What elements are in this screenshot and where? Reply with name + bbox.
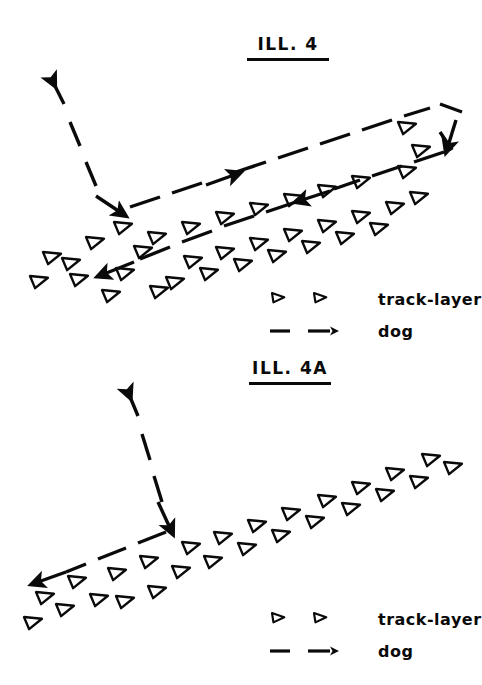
- ill-4a-dog-backtrack-path: [66, 532, 166, 572]
- track-layer-symbol: [268, 606, 378, 632]
- figure-ill-4a: ILL. 4A: [0, 350, 476, 685]
- ill-4-dog-approach-path: [52, 80, 96, 186]
- legend-label-dog: dog: [378, 642, 413, 661]
- legend-row-track-layer: track-layer: [268, 606, 482, 632]
- ill-4a-dog-approach-path: [128, 392, 162, 502]
- dog-symbol: [268, 638, 378, 664]
- legend-row-dog: dog: [268, 318, 482, 344]
- dog-symbol: [268, 318, 378, 344]
- legend-label-dog: dog: [378, 322, 413, 341]
- ill-4-dog-uturn-arrow: [448, 120, 456, 146]
- legend-row-dog: dog: [268, 638, 482, 664]
- ill-4-dog-uturn-path: [440, 104, 462, 150]
- legend-label-track-layer: track-layer: [378, 610, 482, 629]
- ill-4-dog-outbound-path: [130, 108, 430, 207]
- ill-4-dog-outbound-arrow: [206, 175, 234, 185]
- ill-4a-dog-backtrack-arrow: [38, 572, 66, 582]
- ill-4-legend: track-layer dog: [268, 286, 482, 344]
- track-layer-symbol: [268, 286, 378, 312]
- figure-ill-4: ILL. 4: [0, 0, 476, 350]
- ill-4a-dog-junction-arrow: [158, 502, 170, 528]
- ill-4a-legend: track-layer dog: [268, 606, 482, 664]
- legend-row-track-layer: track-layer: [268, 286, 482, 312]
- ill-4-track-layer-trail: [30, 118, 432, 303]
- ill-4a-track-layer-trail: [24, 450, 464, 630]
- legend-label-track-layer: track-layer: [378, 290, 482, 309]
- ill-4-dog-return-path: [140, 152, 444, 259]
- ill-4-dog-junction-arrow: [96, 196, 120, 212]
